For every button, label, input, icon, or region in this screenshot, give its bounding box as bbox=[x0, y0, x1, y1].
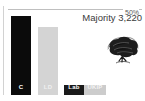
election-bar-chart: 50% Majority 3,220 C LD bbox=[0, 0, 145, 101]
bar-label-ukip: UKIP bbox=[84, 83, 105, 92]
bar-label-lab: Lab bbox=[65, 83, 82, 92]
plot-area: C LD Lab UKIP bbox=[8, 6, 142, 95]
y-axis-spine bbox=[3, 6, 4, 95]
bar-label-c: C bbox=[16, 83, 27, 92]
bar-label-ld: LD bbox=[41, 83, 55, 92]
